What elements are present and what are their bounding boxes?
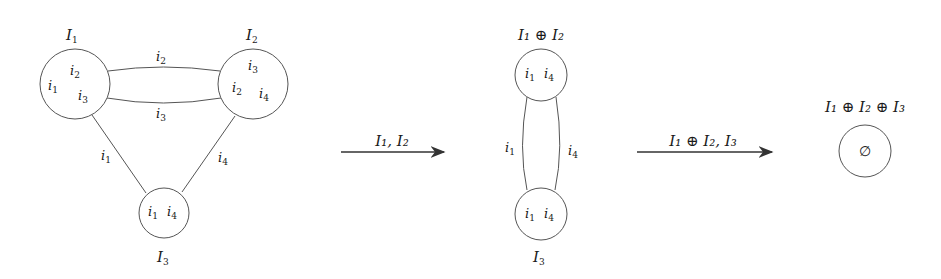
- node-I1-plus-I2-label: I₁ ⊕ I₂: [517, 26, 564, 44]
- node-I1: I1 i2 i1 i3: [40, 26, 110, 119]
- arrow-merge-I1-I2: I₁, I₂: [341, 132, 444, 152]
- stage1-edges: [92, 67, 235, 193]
- node-I2: I2 i3 i2 i4: [218, 26, 288, 119]
- node-I3-stage2: I3 i1 i4: [515, 188, 567, 267]
- stage2-edge-label-i4: i4: [568, 143, 578, 160]
- node-final: I₁ ⊕ I₂ ⊕ I₃ ∅: [824, 98, 905, 177]
- edge-label-i3: i3: [156, 106, 166, 123]
- node-I3: I3 i1 i4: [139, 188, 189, 267]
- stage2-edge-label-i1: i1: [505, 140, 515, 157]
- edge-label-i4: i4: [218, 150, 228, 167]
- edge-i4: [555, 97, 560, 190]
- empty-set-icon: ∅: [859, 143, 871, 159]
- edge-label-i1: i1: [101, 148, 111, 165]
- arrow2-label: I₁ ⊕ I₂, I₃: [668, 132, 736, 150]
- node-I1-plus-I2: I₁ ⊕ I₂ i1 i4: [515, 26, 567, 101]
- edge-i4: [182, 116, 235, 192]
- edge-i2: [108, 67, 220, 71]
- merge-diagram: I1 i2 i1 i3 I2 i3 i2 i4 I3 i1 i4 i2 i3 i…: [0, 0, 941, 279]
- node-I1-label: I1: [65, 26, 78, 45]
- edge-i3: [107, 98, 221, 103]
- node-I3-stage2-label: I3: [532, 248, 545, 267]
- node-I2-label: I2: [245, 26, 258, 45]
- node-final-label: I₁ ⊕ I₂ ⊕ I₃: [824, 98, 905, 116]
- arrow-merge-I12-I3: I₁ ⊕ I₂, I₃: [637, 132, 772, 152]
- edge-label-i2: i2: [156, 49, 166, 66]
- arrow1-label: I₁, I₂: [374, 132, 408, 150]
- stage2-edges: [523, 97, 560, 190]
- node-I3-label: I3: [156, 248, 169, 267]
- edge-i1: [523, 97, 528, 190]
